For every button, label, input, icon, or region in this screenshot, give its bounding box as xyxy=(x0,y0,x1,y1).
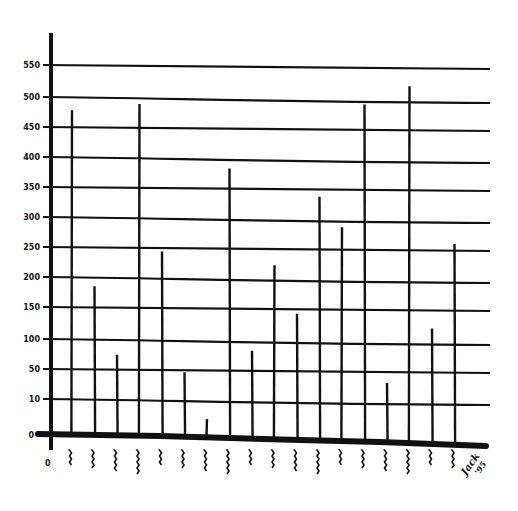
x-category-label xyxy=(70,450,72,465)
gridline xyxy=(43,307,490,311)
bar xyxy=(341,227,342,442)
gridline xyxy=(43,339,490,345)
x-category-label xyxy=(160,450,162,465)
y-tick-label: 50 xyxy=(29,365,41,374)
x-category-label xyxy=(92,450,94,468)
bar xyxy=(252,351,253,441)
y-tick-label: 100 xyxy=(23,335,40,344)
bar xyxy=(365,105,366,444)
gridline xyxy=(43,369,490,373)
bar xyxy=(71,110,72,436)
x-category-label xyxy=(272,450,274,468)
x-axis-labels xyxy=(70,450,455,474)
gridline xyxy=(43,217,490,223)
x-category-label xyxy=(115,450,117,471)
y-tick-label: 10 xyxy=(29,395,41,404)
bar xyxy=(274,265,275,441)
bar xyxy=(185,372,186,439)
x-category-label xyxy=(295,450,297,471)
y-tick-label: 150 xyxy=(23,303,40,312)
x-category-label xyxy=(205,450,207,471)
x-category-label xyxy=(430,450,432,465)
bar xyxy=(117,355,118,437)
gridlines xyxy=(43,65,490,405)
gridline xyxy=(43,127,490,131)
y-tick-label: 400 xyxy=(23,153,40,162)
x-category-label xyxy=(227,450,229,474)
bar xyxy=(139,104,140,438)
bar xyxy=(409,86,410,444)
gridline xyxy=(43,277,490,283)
gridline xyxy=(43,247,490,251)
y-tick-label: 450 xyxy=(23,123,40,132)
bar xyxy=(297,314,298,442)
x-category-label xyxy=(182,450,184,468)
y-tick-label: 200 xyxy=(23,273,40,282)
gridline xyxy=(43,65,490,69)
gridline xyxy=(43,187,490,191)
x-category-label xyxy=(452,450,454,468)
gridline xyxy=(43,97,490,103)
bars xyxy=(71,86,455,445)
y-tick-label: 350 xyxy=(23,183,40,192)
gridline xyxy=(43,399,490,405)
y-tick-label: 500 xyxy=(23,93,40,102)
x-category-label xyxy=(362,450,364,468)
x-axis xyxy=(38,434,486,446)
x-category-label xyxy=(317,450,319,474)
gridline xyxy=(43,157,490,163)
chart: 10501001502002503003504004505005500 0 Ja… xyxy=(0,0,518,511)
bar-chart-canvas: 10501001502002503003504004505005500 0 Ja… xyxy=(0,0,518,511)
y-tick-label: 550 xyxy=(23,61,40,70)
bar xyxy=(95,286,96,436)
y-axis-ticks: 10501001502002503003504004505005500 xyxy=(23,61,40,440)
bar xyxy=(230,168,231,439)
bar xyxy=(320,197,321,442)
x-category-label xyxy=(340,450,342,465)
y-tick-label: 300 xyxy=(23,213,40,222)
y-tick-label: 0 xyxy=(28,431,34,440)
x-category-label xyxy=(407,450,409,474)
x-category-label xyxy=(385,450,387,471)
y-tick-label: 250 xyxy=(23,243,40,252)
bar xyxy=(162,251,163,438)
bar xyxy=(387,383,388,444)
x-category-label xyxy=(250,450,252,465)
bar xyxy=(432,329,433,445)
bar xyxy=(455,244,456,445)
x-category-label xyxy=(137,450,139,474)
x-origin-label: 0 xyxy=(45,459,51,468)
signature: Jack '95 xyxy=(457,451,489,485)
